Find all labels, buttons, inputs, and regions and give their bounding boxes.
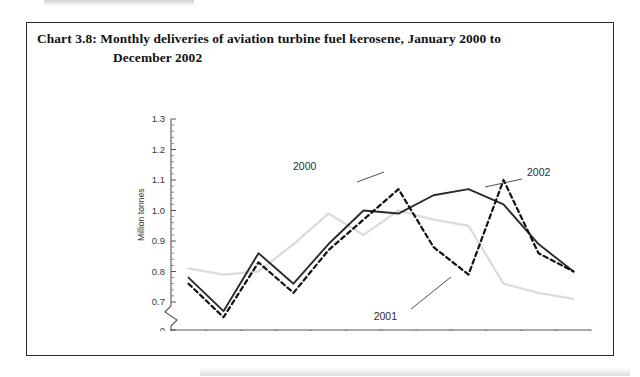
series-label-2001: 2001: [374, 310, 398, 322]
chart-title-line2: December 2002: [37, 48, 597, 67]
y-tick-label-1.3: 1.3: [152, 113, 165, 124]
y-tick-label-1.2: 1.2: [152, 144, 165, 155]
scan-artifact-bottom: [200, 367, 630, 376]
y-tick-group: 0.70.80.91.01.11.21.3: [152, 113, 176, 307]
y-tick-label-0.9: 0.9: [152, 235, 165, 246]
annotation-2000: 2000: [293, 160, 384, 182]
series-label-2002: 2002: [527, 166, 551, 178]
line-chart: 0.70.80.91.01.11.21.3 0 Million tonnes J…: [135, 91, 597, 331]
annotation-2001: 2001: [374, 277, 451, 322]
chart-title: Chart 3.8: Monthly deliveries of aviatio…: [37, 29, 597, 67]
y-tick-label-0.8: 0.8: [152, 266, 165, 277]
series-line-2002: [189, 180, 574, 317]
y-tick-label-1.1: 1.1: [152, 174, 165, 185]
series-line-2001: [189, 211, 574, 299]
y-axis-break-icon: [165, 302, 177, 331]
chart-number: Chart 3.8:: [37, 31, 97, 46]
scan-artifact-top: [44, 0, 194, 6]
series-group: [189, 180, 574, 317]
y-tick-label-1.0: 1.0: [152, 205, 165, 216]
series-label-2000: 2000: [293, 160, 317, 172]
y-tick-label-zero: 0: [160, 325, 165, 331]
plot-area: 0.70.80.91.01.11.21.3 0 Million tonnes J…: [135, 91, 597, 331]
y-tick-label-0.7: 0.7: [152, 296, 165, 307]
chart-title-line1: Monthly deliveries of aviation turbine f…: [100, 31, 501, 46]
series-line-2000: [189, 189, 574, 311]
annotation-leader-2000: [357, 172, 384, 182]
y-axis: [165, 119, 177, 331]
chart-frame: Chart 3.8: Monthly deliveries of aviatio…: [26, 22, 614, 356]
y-axis-title: Million tonnes: [136, 188, 146, 241]
annotation-2002: 2002: [485, 166, 551, 187]
annotation-leader-2001: [411, 277, 451, 309]
